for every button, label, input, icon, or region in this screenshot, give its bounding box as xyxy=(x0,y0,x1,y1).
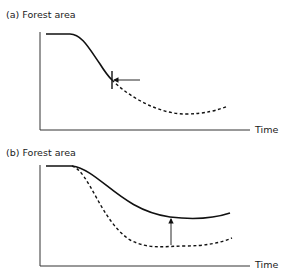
diagram-canvas xyxy=(0,0,289,280)
panel-b xyxy=(40,165,250,266)
panel-a-dashed-curve xyxy=(112,80,228,114)
panel-a-solid-curve xyxy=(46,34,112,80)
panel-a xyxy=(40,32,250,130)
panel-b-solid-curve xyxy=(46,166,230,218)
